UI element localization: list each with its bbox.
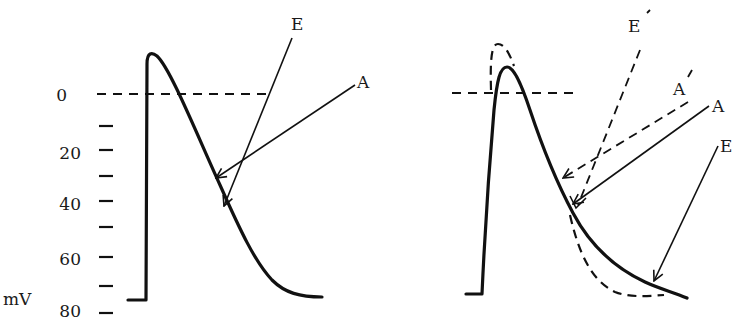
label-E-right: E [720,136,732,156]
label-E-prime: E [628,16,640,36]
tick-label-60: 60 [59,249,81,269]
tick-label-80: 80 [59,301,81,321]
label-A-prime: A [672,79,686,99]
y-axis: 0 20 40 60 80 mV [3,85,113,321]
tick-label-20: 20 [59,143,81,163]
prime-mark-A [688,70,692,77]
arrow-A-right [573,106,709,204]
prime-mark-E [647,10,650,13]
tick-label-0: 0 [56,85,67,105]
label-A-right: A [711,96,725,116]
action-potential-left [128,54,322,300]
arrow-A-left [216,85,355,178]
tick-label-40: 40 [59,194,81,214]
action-potential-diagram: 0 20 40 60 80 mV E A [0,0,738,328]
unit-label: mV [3,289,32,309]
arrow-E-left [224,38,292,206]
label-A-left: A [356,72,370,92]
left-panel: E A [97,14,370,300]
action-potential-right-dashed [491,44,664,296]
right-panel: E A A E [452,10,732,298]
arrowhead-E-prime [570,196,586,208]
action-potential-right-solid [466,67,687,298]
arrow-E-right [654,146,718,281]
arrow-E-prime [578,50,640,205]
label-E-left: E [291,14,303,34]
